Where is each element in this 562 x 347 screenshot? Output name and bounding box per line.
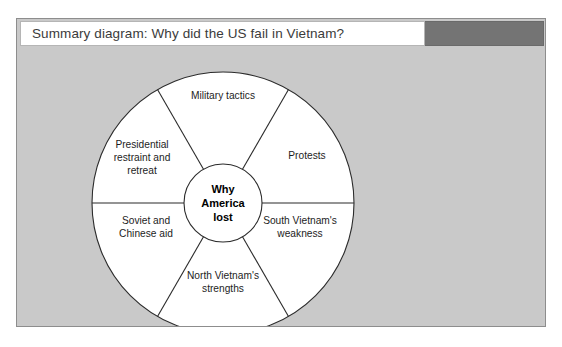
segment-label-protests: Protests (288, 150, 325, 161)
segment-south-vietnam-line-1: South Vietnam's (263, 215, 337, 226)
segment-soviet-aid-line-2: Chinese aid (119, 228, 173, 239)
segment-soviet-aid-line-1: Soviet and (122, 215, 170, 226)
title-accent-block (425, 21, 544, 46)
wheel-svg: Why America lost Military tactics Protes… (17, 44, 545, 326)
segment-north-vietnam-line-1: North Vietnam's (187, 270, 259, 281)
segment-presidential-line-2: restraint and (114, 152, 171, 163)
hub-line-3: lost (213, 211, 233, 223)
segment-protests-line-1: Protests (288, 150, 325, 161)
wheel-diagram: Why America lost Military tactics Protes… (17, 44, 545, 326)
segment-presidential-line-1: Presidential (115, 139, 168, 150)
hub-line-2: America (201, 197, 245, 209)
segment-north-vietnam-line-2: strengths (202, 283, 244, 294)
title-bar: Summary diagram: Why did the US fail in … (20, 21, 544, 46)
hub-line-1: Why (211, 183, 235, 195)
segment-military-tactics-line-1: Military tactics (191, 90, 255, 101)
segment-presidential-line-3: retreat (127, 165, 157, 176)
segment-south-vietnam-line-2: weakness (276, 228, 322, 239)
summary-diagram-panel: Summary diagram: Why did the US fail in … (16, 18, 546, 327)
page-title: Summary diagram: Why did the US fail in … (32, 26, 344, 41)
segment-label-military-tactics: Military tactics (191, 90, 255, 101)
title-box: Summary diagram: Why did the US fail in … (20, 21, 425, 46)
